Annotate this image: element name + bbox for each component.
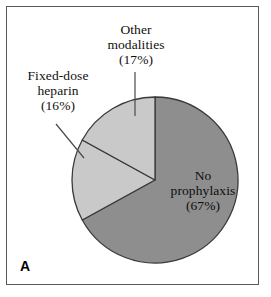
- slice-label-other-modalities-line1: Other: [84, 22, 188, 37]
- slice-label-no-prophylaxis-percent: (67%): [160, 198, 246, 213]
- panel-letter: A: [20, 258, 30, 274]
- slice-label-fixed-dose-heparin-line1: Fixed-dose: [6, 68, 110, 83]
- slice-label-other-modalities: Other modalities (17%): [84, 22, 188, 67]
- slice-label-fixed-dose-heparin: Fixed-dose heparin (16%): [6, 68, 110, 113]
- slice-label-other-modalities-line2: modalities: [84, 37, 188, 52]
- slice-label-no-prophylaxis-line1: No: [160, 168, 246, 183]
- slice-label-other-modalities-percent: (17%): [84, 52, 188, 67]
- slice-label-fixed-dose-heparin-percent: (16%): [6, 98, 110, 113]
- slice-label-no-prophylaxis-line2: prophylaxis: [160, 183, 246, 198]
- slice-label-fixed-dose-heparin-line2: heparin: [6, 83, 110, 98]
- slice-label-no-prophylaxis: No prophylaxis (67%): [160, 168, 246, 213]
- pie-chart-figure-panel: Other modalities (17%) Fixed-dose hepari…: [0, 0, 271, 297]
- leader-line-fixed-dose-heparin: [56, 124, 84, 158]
